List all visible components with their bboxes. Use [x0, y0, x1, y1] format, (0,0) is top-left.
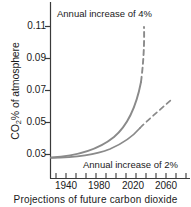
figure-caption: Projections of future carbon dioxide: [0, 194, 191, 205]
y-tick-label-0: 0.11: [6, 20, 46, 31]
x-tick-marks: [56, 173, 186, 178]
y-tick-label-1: 0.09: [6, 52, 46, 63]
curve-2pct-dashed: [140, 99, 172, 128]
x-tick-label-3: 2060: [149, 180, 183, 191]
chart-plot-area: CO2% of atmosphere 0.11 0.09 0.07 0.05 0…: [0, 0, 191, 186]
y-tick-label-2: 0.07: [6, 84, 46, 95]
x-tick-label-0: 1940: [49, 180, 83, 191]
x-tick-labels: 1940 1980 2020 2060: [0, 180, 191, 194]
curve-4pct-dashed: [141, 27, 144, 82]
x-tick-label-2: 2020: [116, 180, 150, 191]
annotation-annual-increase-4: Annual increase of 4%: [57, 8, 152, 19]
y-tick-label-3: 0.05: [6, 116, 46, 127]
y-tick-labels: 0.11 0.09 0.07 0.05 0.03: [4, 0, 46, 186]
co2-projection-figure: CO2% of atmosphere 0.11 0.09 0.07 0.05 0…: [0, 0, 191, 207]
annotation-annual-increase-2: Annual increase of 2%: [83, 159, 178, 170]
y-tick-label-4: 0.03: [6, 148, 46, 159]
curve-4pct-solid: [51, 82, 141, 158]
x-tick-label-1: 1980: [82, 180, 116, 191]
curve-2pct-solid: [51, 128, 140, 158]
